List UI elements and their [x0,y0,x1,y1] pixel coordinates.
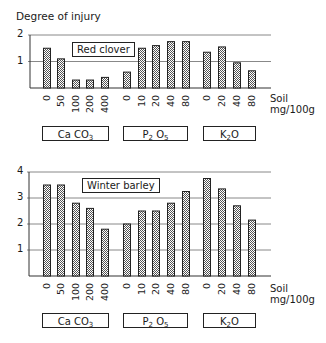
bar [102,77,109,88]
bar [58,185,65,276]
x-tick-label: 40 [232,95,242,107]
x-tick-label: 10 [137,283,147,295]
x-tick-label: 400 [100,95,110,113]
y-tick-label: 2 [17,28,27,39]
x-tick-label: 80 [247,95,257,107]
x-tick-label: 0 [122,95,132,101]
x-tick-label: 0 [202,283,212,289]
bar [249,71,256,88]
bar [124,72,131,88]
x-tick-label: 200 [85,283,95,301]
x-tick-label: 200 [85,95,95,113]
group-box-caco3: Ca CO3 [42,126,109,141]
x-axis-unit-winter-barley: Soil mg/100g [270,283,315,305]
x-tick-label: 80 [181,95,191,107]
bar [183,192,190,277]
bar [168,42,175,88]
bar [44,185,51,276]
bar [73,203,80,276]
unit-label: mg/100g [270,294,315,305]
bar [249,220,256,276]
bar [183,42,190,88]
group-box-p2o5: P2 O5 [123,126,188,141]
bar [234,206,241,276]
bar [139,211,146,276]
red-clover-plot [28,35,271,88]
x-axis-unit-red-clover: Soil mg/100g [270,93,315,115]
x-tick-label: 100 [71,283,81,301]
bar [139,48,146,88]
bar [102,229,109,276]
y-tick-label: 1 [17,243,27,254]
soil-label: Soil [270,93,315,104]
y-tick-label: 4 [17,165,27,176]
soil-label: Soil [270,283,315,294]
x-tick-label: 10 [137,95,147,107]
x-tick-label: 50 [56,95,66,107]
x-tick-label: 20 [217,283,227,295]
bar [87,208,94,276]
bar [58,59,65,88]
bar [73,80,80,88]
x-tick-label: 400 [100,283,110,301]
group-box-k2o: K2O [203,126,256,141]
legend-red-clover: Red clover [72,42,135,57]
x-tick-label: 40 [232,283,242,295]
bar [124,224,131,276]
bar [153,211,160,276]
x-tick-label: 20 [151,283,161,295]
x-tick-label: 40 [166,283,176,295]
x-tick-label: 80 [181,283,191,295]
y-tick-label: 1 [17,55,27,66]
bar [219,47,226,88]
x-tick-label: 50 [56,283,66,295]
bar [168,203,175,276]
bar [87,80,94,88]
bar [153,46,160,88]
legend-winter-barley: Winter barley [82,178,160,193]
group-box-caco3: Ca CO3 [42,313,109,328]
bar [234,63,241,88]
x-tick-label: 20 [217,95,227,107]
bar [44,48,51,88]
x-tick-label: 40 [166,95,176,107]
y-tick-label: 3 [17,191,27,202]
x-tick-label: 0 [42,283,52,289]
x-tick-label: 0 [42,95,52,101]
x-tick-label: 0 [202,95,212,101]
group-box-p2o5: P2 O5 [123,313,188,328]
group-box-k2o: K2O [203,313,256,328]
bar [219,189,226,276]
unit-label: mg/100g [270,104,315,115]
x-tick-label: 100 [71,95,81,113]
y-tick-label: 2 [17,217,27,228]
x-tick-label: 0 [122,283,132,289]
bar [204,179,211,277]
x-tick-label: 80 [247,283,257,295]
bar [204,52,211,88]
x-tick-label: 20 [151,95,161,107]
